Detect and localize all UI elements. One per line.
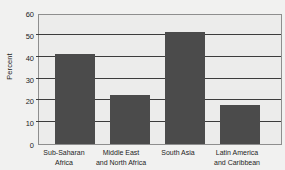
bar-sub-saharan-africa <box>55 54 95 144</box>
y-tick-mark-30 <box>36 78 39 79</box>
y-tick-mark-10 <box>36 121 39 122</box>
y-tick-label-60: 60 <box>14 11 34 19</box>
x-tick-label-latin-america-caribbean: Latin America and Caribbean <box>197 148 277 167</box>
bar-south-asia <box>165 32 205 144</box>
y-tick-label-50: 50 <box>14 33 34 41</box>
chart-figure: Percent 60 50 40 30 20 10 0 Sub-Saharan <box>0 0 285 170</box>
y-tick-label-40: 40 <box>14 55 34 63</box>
plot-area <box>38 14 282 145</box>
y-tick-label-10: 10 <box>14 120 34 128</box>
y-tick-mark-50 <box>36 34 39 35</box>
y-tick-label-20: 20 <box>14 98 34 106</box>
y-tick-mark-40 <box>36 56 39 57</box>
chart-title <box>38 0 238 3</box>
x-tick-label-line-2: and North Africa <box>81 158 161 168</box>
y-tick-label-30: 30 <box>14 77 34 85</box>
x-tick-label-line-2: and Caribbean <box>197 158 277 168</box>
y-axis-title: Percent <box>5 37 14 97</box>
bar-middle-east-north-africa <box>110 95 150 145</box>
gridline-50 <box>39 34 281 35</box>
y-tick-mark-20 <box>36 99 39 100</box>
bar-latin-america-caribbean <box>220 105 260 144</box>
x-tick-label-line-1: Latin America <box>197 148 277 158</box>
